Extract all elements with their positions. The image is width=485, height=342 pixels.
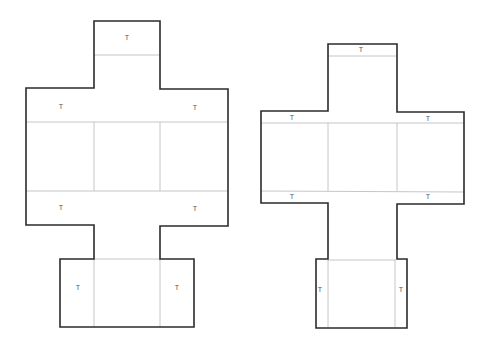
- tab-label-bottom-right: T: [175, 284, 180, 291]
- fold-lines: [261, 56, 464, 327]
- tab-label-bottom-left: T: [318, 286, 323, 293]
- fold-lines: [26, 55, 228, 327]
- tab-label-left-lower: T: [59, 204, 64, 211]
- tab-label-left-upper: T: [59, 103, 64, 110]
- tab-label-left-lower: T: [290, 193, 295, 200]
- tab-label-right-upper: T: [426, 115, 431, 122]
- tab-label-top: T: [125, 34, 130, 41]
- tab-label-left-upper: T: [290, 114, 295, 121]
- tab-label-top: T: [359, 46, 364, 53]
- fold-line-lower: [261, 191, 464, 192]
- box-nets-diagram: T T T T T T T T T T T T T T: [0, 0, 485, 342]
- cut-outline: [261, 44, 464, 328]
- tab-label-right-lower: T: [426, 193, 431, 200]
- tab-label-bottom-right: T: [399, 286, 404, 293]
- tab-label-bottom-left: T: [76, 284, 81, 291]
- net-small: T T T T T T T: [261, 44, 464, 328]
- tab-label-right-lower: T: [193, 205, 198, 212]
- net-large: T T T T T T T: [26, 21, 228, 327]
- tab-label-right-upper: T: [193, 104, 198, 111]
- cut-outline: [26, 21, 228, 327]
